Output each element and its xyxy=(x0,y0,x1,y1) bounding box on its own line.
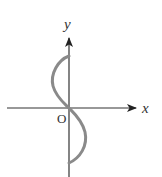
coordinate-diagram: y x O xyxy=(0,0,162,177)
x-axis-label: x xyxy=(141,100,149,116)
origin-label: O xyxy=(57,111,66,126)
y-axis-label: y xyxy=(62,16,71,32)
